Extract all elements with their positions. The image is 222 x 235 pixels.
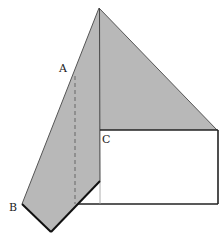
diagram-canvas: A B C <box>0 0 222 235</box>
edge-apex-to-c <box>100 8 101 181</box>
label-a: A <box>58 62 68 75</box>
shaded-folded-strip <box>22 8 100 232</box>
label-b: B <box>9 201 17 214</box>
label-c: C <box>102 133 110 146</box>
